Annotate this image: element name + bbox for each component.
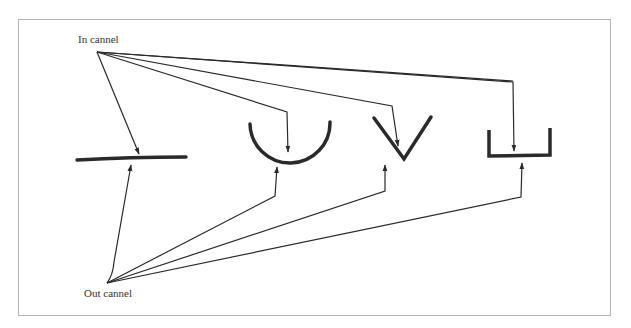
v-channel-shape (374, 117, 431, 159)
semicircle-channel-shape (250, 122, 330, 163)
in-channel-arrows (97, 52, 514, 154)
channel-diagram (0, 0, 631, 328)
rectangular-channel-shape (489, 128, 550, 156)
out-channel-arrows (107, 163, 522, 283)
in-channel-label: In cannel (78, 33, 119, 45)
out-channel-label: Out cannel (84, 287, 132, 299)
flat-channel-shape (77, 157, 186, 160)
